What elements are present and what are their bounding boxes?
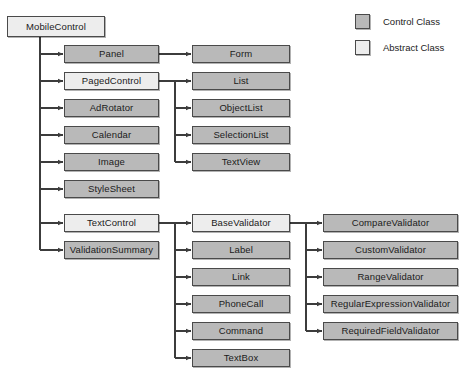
legend-label: Control Class xyxy=(383,16,440,27)
class-hierarchy-diagram: MobileControlPanelPagedControlAdRotatorC… xyxy=(0,0,468,390)
class-node-form[interactable]: Form xyxy=(192,45,290,63)
class-node-label: Link xyxy=(229,272,253,282)
class-node-object-list[interactable]: ObjectList xyxy=(192,99,290,117)
class-node-required-field-validator[interactable]: RequiredFieldValidator xyxy=(323,322,458,340)
class-node-calendar[interactable]: Calendar xyxy=(64,126,159,144)
class-node-link[interactable]: Link xyxy=(192,268,290,286)
class-node-text-control[interactable]: TextControl xyxy=(64,214,159,232)
class-node-style-sheet[interactable]: StyleSheet xyxy=(64,180,159,198)
class-node-phone-call[interactable]: PhoneCall xyxy=(192,295,290,313)
class-node-label: ValidationSummary xyxy=(67,245,156,255)
class-node-label: BaseValidator xyxy=(208,218,274,228)
class-node-label: AdRotator xyxy=(87,103,137,113)
class-node-label: PagedControl xyxy=(79,76,144,86)
class-node-label: SelectionList xyxy=(210,130,271,140)
class-node-image[interactable]: Image xyxy=(64,153,159,171)
class-node-label: CustomValidator xyxy=(352,245,429,255)
class-node-base-validator[interactable]: BaseValidator xyxy=(192,214,290,232)
legend-swatch-control xyxy=(355,14,370,29)
class-node-list[interactable]: List xyxy=(192,72,290,90)
class-node-label: TextBox xyxy=(221,353,262,363)
class-node-label: RegularExpressionValidator xyxy=(328,299,454,309)
class-node-label: CompareValidator xyxy=(349,218,432,228)
class-node-label: ObjectList xyxy=(216,103,265,113)
class-node-label: TextControl xyxy=(84,218,139,228)
class-node-custom-validator[interactable]: CustomValidator xyxy=(323,241,458,259)
class-node-regular-expression-validator[interactable]: RegularExpressionValidator xyxy=(323,295,458,313)
class-node-text-view[interactable]: TextView xyxy=(192,153,290,171)
class-node-label: MobileControl xyxy=(23,22,89,32)
trunk-pagedcontrol xyxy=(159,81,175,162)
class-node-label: Form xyxy=(227,49,256,59)
class-node-label: Calendar xyxy=(89,130,134,140)
class-node-panel[interactable]: Panel xyxy=(64,45,159,63)
class-node-label[interactable]: Label xyxy=(192,241,290,259)
class-node-label: Command xyxy=(216,326,267,336)
legend-swatch-abstract xyxy=(355,40,370,55)
class-node-label: Image xyxy=(95,157,128,167)
class-node-paged-control[interactable]: PagedControl xyxy=(64,72,159,90)
legend-label: Abstract Class xyxy=(383,42,444,53)
class-node-command[interactable]: Command xyxy=(192,322,290,340)
class-node-text-box[interactable]: TextBox xyxy=(192,349,290,367)
trunk-textcontrol xyxy=(159,223,175,358)
class-node-validation-summary[interactable]: ValidationSummary xyxy=(64,241,159,259)
class-node-label: StyleSheet xyxy=(85,184,138,194)
class-node-label: TextView xyxy=(219,157,264,167)
class-node-label: PhoneCall xyxy=(216,299,267,309)
class-node-label: RangeValidator xyxy=(354,272,426,282)
class-node-ad-rotator[interactable]: AdRotator xyxy=(64,99,159,117)
legend-item-abstract: Abstract Class xyxy=(355,40,444,55)
class-node-label: RequiredFieldValidator xyxy=(338,326,442,336)
class-node-label: List xyxy=(230,76,251,86)
legend-item-control: Control Class xyxy=(355,14,440,29)
class-node-compare-validator[interactable]: CompareValidator xyxy=(323,214,458,232)
trunk-basevalidator xyxy=(290,223,306,331)
class-node-mobile-control[interactable]: MobileControl xyxy=(7,16,105,37)
class-node-selection-list[interactable]: SelectionList xyxy=(192,126,290,144)
class-node-label: Label xyxy=(226,245,256,255)
class-node-range-validator[interactable]: RangeValidator xyxy=(323,268,458,286)
class-node-label: Panel xyxy=(96,49,127,59)
